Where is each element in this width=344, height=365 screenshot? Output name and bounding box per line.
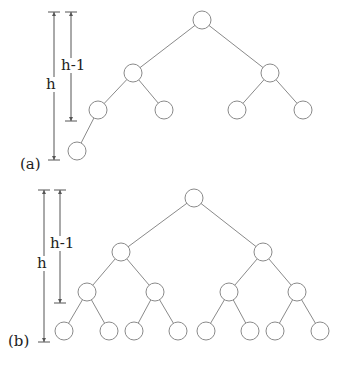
tree-node — [169, 322, 187, 340]
tree-node — [68, 142, 86, 160]
arrow-down-icon — [52, 156, 56, 160]
tree-node — [125, 322, 143, 340]
tree-node — [288, 283, 306, 301]
arrow-up-icon — [69, 12, 73, 16]
tree-node — [266, 322, 284, 340]
tree-node — [89, 101, 107, 119]
tree-node — [311, 322, 329, 340]
caption-a: (a) — [20, 157, 41, 172]
tree-node — [155, 101, 173, 119]
tree-node — [185, 189, 203, 207]
height-minus-one-label-a: h-1 — [61, 58, 85, 73]
tree-edge — [133, 20, 202, 73]
arrow-down-icon — [42, 338, 46, 342]
tree-height-diagram: (a) h h-1 (b) h h-1 — [0, 0, 344, 365]
tree-node — [112, 243, 130, 261]
tree-edge — [121, 198, 194, 252]
height-label-b: h — [37, 256, 47, 271]
tree-node — [197, 322, 215, 340]
tree-node — [241, 322, 259, 340]
tree-node — [220, 283, 238, 301]
arrow-up-icon — [58, 190, 62, 194]
tree-node — [261, 64, 279, 82]
tree-node — [294, 101, 312, 119]
arrow-down-icon — [58, 299, 62, 303]
tree-node — [228, 101, 246, 119]
tree-node — [78, 283, 96, 301]
caption-b: (b) — [8, 334, 29, 349]
height-minus-one-label-b: h-1 — [50, 236, 74, 251]
arrow-up-icon — [42, 190, 46, 194]
tree-node — [254, 243, 272, 261]
tree-node — [55, 322, 73, 340]
tree-node — [193, 11, 211, 29]
tree-node — [146, 283, 164, 301]
tree-node — [124, 64, 142, 82]
arrow-up-icon — [52, 12, 56, 16]
tree-edge — [202, 20, 270, 73]
trees-svg — [0, 0, 344, 365]
height-label-a: h — [46, 77, 56, 92]
tree-node — [100, 322, 118, 340]
arrow-down-icon — [69, 117, 73, 121]
tree-edge — [194, 198, 263, 252]
